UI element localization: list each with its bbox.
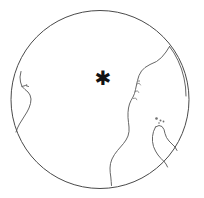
islet-marker-islet-2	[160, 120, 162, 122]
islet-marker-islet-1	[155, 117, 158, 120]
globe-limb-circle	[11, 11, 189, 189]
islet-marker-islet-5	[138, 80, 140, 82]
globe-map-figure: ✱	[0, 0, 204, 198]
globe-map-canvas: ✱	[0, 0, 204, 198]
coastline-southeast-island-tip	[164, 162, 168, 168]
location-marker-asterisk[interactable]: ✱	[95, 66, 112, 90]
islet-marker-islet-3	[163, 121, 165, 123]
islet-marker-islet-6	[26, 84, 28, 86]
islet-marker-islet-4	[158, 122, 160, 124]
